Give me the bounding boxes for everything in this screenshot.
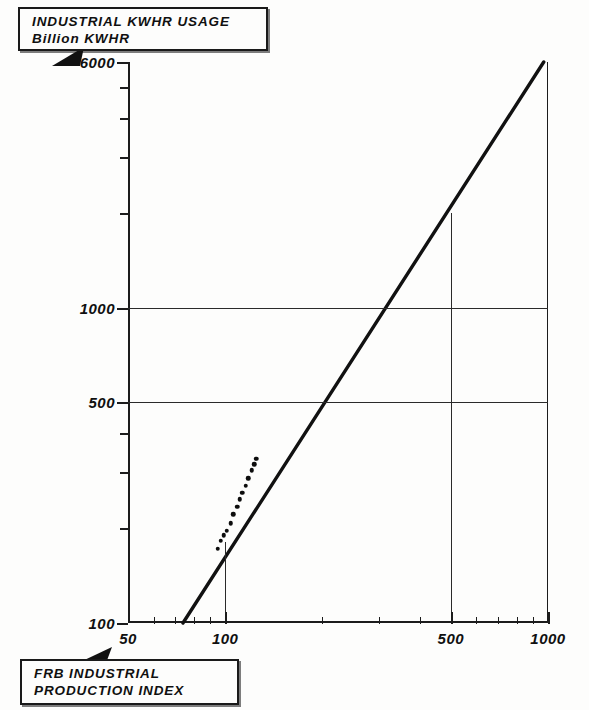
plot-area: 10050010006000501005001000 — [128, 62, 548, 623]
x-axis-major-tick — [225, 612, 227, 624]
x-axis-tick-label: 1000 — [530, 630, 565, 647]
data-point — [222, 533, 227, 538]
x-axis-tick-label: 500 — [438, 630, 465, 647]
data-point — [224, 529, 229, 534]
title-callout-box: INDUSTRIAL KWHR USAGE Billion KWHR — [18, 7, 268, 51]
x-axis-minor-tick — [420, 617, 421, 624]
y-axis-minor-tick — [120, 157, 128, 159]
x-axis-minor-tick — [379, 617, 380, 624]
y-axis-tick-label: 500 — [88, 394, 115, 411]
y-axis-minor-tick — [120, 87, 128, 89]
gridline-horizontal — [128, 308, 548, 309]
y-axis-minor-tick — [120, 118, 128, 120]
title-line-1: INDUSTRIAL KWHR USAGE — [32, 13, 256, 30]
x-axis-minor-tick — [175, 617, 176, 624]
y-axis-major-tick — [117, 62, 128, 64]
title-line-2: Billion KWHR — [32, 30, 256, 47]
trend-line-layer — [128, 62, 548, 623]
x-axis-minor-tick — [154, 617, 155, 624]
y-axis-tick-label: 100 — [88, 615, 115, 632]
x-axis-minor-tick — [517, 617, 518, 624]
data-point — [240, 490, 245, 495]
x-axis-minor-tick — [476, 617, 477, 624]
x-axis-minor-tick — [194, 617, 195, 624]
x-axis-major-tick — [451, 612, 453, 624]
data-point — [244, 484, 249, 489]
x-axis-minor-tick — [533, 617, 534, 624]
data-point — [228, 521, 233, 526]
data-point — [246, 476, 251, 481]
reference-line-vertical — [225, 542, 226, 623]
data-point — [250, 468, 255, 473]
reference-line-vertical — [451, 213, 452, 623]
x-axis-major-tick — [548, 612, 550, 624]
x-axis-minor-tick — [498, 617, 499, 624]
y-axis-tick-label: 1000 — [80, 299, 115, 316]
x-axis-minor-tick — [210, 617, 211, 624]
y-axis-minor-tick — [120, 472, 128, 474]
xlabel-line-2: PRODUCTION INDEX — [34, 682, 227, 699]
y-axis-major-tick — [117, 308, 128, 310]
data-point — [238, 497, 243, 502]
x-axis-tick-label: 50 — [119, 630, 137, 647]
fitted-trend-line — [183, 62, 544, 623]
data-point — [219, 539, 224, 544]
gridline-horizontal — [128, 402, 548, 403]
y-axis-minor-tick — [120, 433, 128, 435]
chart-page: INDUSTRIAL KWHR USAGE Billion KWHR FRB I… — [0, 0, 589, 710]
y-axis-minor-tick — [120, 213, 128, 215]
x-axis-minor-tick — [322, 617, 323, 624]
data-point — [231, 512, 236, 517]
xlabel-line-1: FRB INDUSTRIAL — [34, 665, 227, 682]
data-point — [252, 462, 257, 467]
y-axis-major-tick — [117, 402, 128, 404]
y-axis-major-tick — [117, 623, 128, 625]
y-axis-minor-tick — [120, 528, 128, 530]
data-point — [235, 504, 240, 509]
data-point — [216, 546, 221, 551]
xaxis-label-callout-box: FRB INDUSTRIAL PRODUCTION INDEX — [20, 659, 239, 705]
x-axis-tick-label: 100 — [212, 630, 239, 647]
data-point — [254, 456, 259, 461]
